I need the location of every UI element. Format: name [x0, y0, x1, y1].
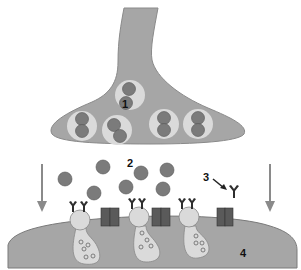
ion-channel: [101, 208, 119, 226]
free-receptor-icon: [229, 185, 239, 198]
down-arrow-right: [265, 164, 275, 212]
synaptic-vesicle: [115, 80, 145, 110]
label-2: 2: [127, 157, 133, 169]
synaptic-vesicle: [149, 109, 179, 139]
label-1: 1: [122, 98, 128, 110]
synaptic-vesicle: [102, 115, 132, 145]
synaptic-vesicle: [67, 111, 97, 141]
synapse-diagram: 1 2 3: [0, 0, 301, 270]
ion-channel: [152, 208, 170, 226]
neurotransmitters: [58, 160, 174, 200]
label-4: 4: [240, 247, 247, 259]
label-3: 3: [203, 171, 209, 183]
synaptic-vesicle: [183, 109, 213, 139]
down-arrow-left: [37, 164, 47, 212]
ion-channel: [217, 208, 233, 226]
